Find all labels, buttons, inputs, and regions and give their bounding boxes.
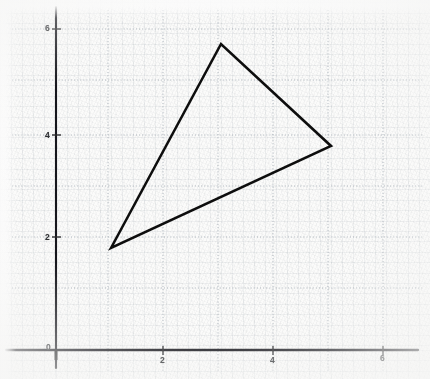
major-gridlines [12,10,424,371]
triangle-shape [111,44,331,248]
x-tick-label-2: 2 [160,355,165,365]
x-tick-label-6: 6 [380,353,385,363]
y-tick-label-4: 4 [45,130,50,140]
origin-label: 0 [46,342,51,352]
y-tick-label-2: 2 [45,232,50,242]
axis-ticks [52,29,383,355]
graph-figure: 2 4 6 2 4 6 0 [0,0,430,379]
plot-canvas [0,0,430,379]
x-tick-label-4: 4 [270,355,275,365]
y-tick-label-6: 6 [45,23,50,33]
